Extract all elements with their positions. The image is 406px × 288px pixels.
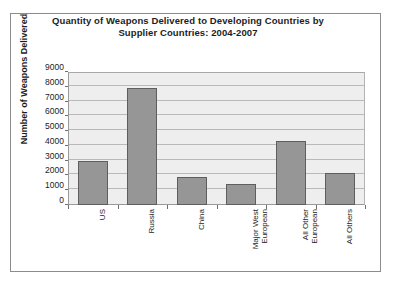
gridline bbox=[69, 129, 364, 130]
gridline bbox=[69, 100, 364, 101]
x-category-label: All Others bbox=[345, 209, 354, 269]
gridline bbox=[69, 173, 364, 174]
x-tick-mark bbox=[118, 205, 119, 209]
x-label-line: All Other bbox=[301, 209, 310, 269]
y-tick-label: 5000 bbox=[45, 121, 64, 131]
y-tick-label: 1000 bbox=[45, 180, 64, 190]
gridline bbox=[69, 188, 364, 189]
chart-title-line-1: Quantity of Weapons Delivered to Develop… bbox=[18, 15, 358, 27]
plot-area bbox=[68, 72, 365, 205]
x-tick-mark bbox=[266, 205, 267, 209]
x-category-label: Russia bbox=[147, 209, 156, 269]
x-tick-mark bbox=[68, 205, 69, 209]
x-label-line: Russia bbox=[147, 209, 156, 269]
x-tick-mark bbox=[217, 205, 218, 209]
y-tick-label: 3000 bbox=[45, 151, 64, 161]
gridlines bbox=[69, 73, 364, 204]
y-axis-title: Number of Weapons Delivered bbox=[19, 9, 29, 149]
gridline bbox=[69, 114, 364, 115]
y-tick-label: 2000 bbox=[45, 165, 64, 175]
y-tick-label: 7000 bbox=[45, 92, 64, 102]
x-category-label: All OtherEuropean bbox=[301, 209, 319, 269]
x-label-line: US bbox=[98, 209, 107, 269]
y-tick-label: 8000 bbox=[45, 77, 64, 87]
x-category-label: China bbox=[197, 209, 206, 269]
y-tick-label: 0 bbox=[59, 195, 64, 205]
gridline bbox=[69, 85, 364, 86]
chart-title: Quantity of Weapons Delivered to Develop… bbox=[18, 15, 358, 39]
gridline bbox=[69, 144, 364, 145]
x-tick-mark bbox=[365, 205, 366, 209]
y-tick-label: 6000 bbox=[45, 106, 64, 116]
x-label-line: China bbox=[197, 209, 206, 269]
gridline bbox=[69, 159, 364, 160]
x-label-line: European bbox=[310, 209, 319, 269]
x-category-label: Major WestEuropean bbox=[251, 209, 269, 269]
x-label-line: Major West bbox=[251, 209, 260, 269]
y-tick-label: 4000 bbox=[45, 136, 64, 146]
y-tick-label: 9000 bbox=[45, 62, 64, 72]
x-category-label: US bbox=[98, 209, 107, 269]
x-label-line: All Others bbox=[345, 209, 354, 269]
x-label-line: European bbox=[260, 209, 269, 269]
chart-title-line-2: Supplier Countries: 2004-2007 bbox=[18, 27, 358, 39]
x-axis-category-labels: USRussiaChinaMajor WestEuropeanAll Other… bbox=[68, 209, 365, 269]
y-axis-tick-labels: 0100020003000400050006000700080009000 bbox=[30, 72, 64, 205]
x-tick-mark bbox=[167, 205, 168, 209]
x-tick-mark bbox=[316, 205, 317, 209]
